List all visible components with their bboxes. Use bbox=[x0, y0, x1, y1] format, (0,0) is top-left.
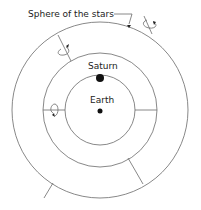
saturn-body bbox=[96, 74, 104, 82]
axis-lower-right bbox=[128, 158, 143, 184]
celestial-spheres-diagram bbox=[0, 0, 201, 210]
label-saturn: Saturn bbox=[88, 61, 118, 71]
label-sphere-of-stars: Sphere of the stars bbox=[28, 9, 114, 19]
label-pointer-line bbox=[114, 14, 132, 24]
earth-body bbox=[98, 109, 103, 114]
axis-upper-right-outer bbox=[144, 16, 152, 34]
axis-upper-left bbox=[58, 35, 71, 61]
rotation-arrow-icon bbox=[58, 47, 69, 55]
label-earth: Earth bbox=[90, 95, 114, 105]
axis-lower-left-outer bbox=[44, 183, 53, 198]
arrowhead-icon bbox=[52, 113, 55, 117]
